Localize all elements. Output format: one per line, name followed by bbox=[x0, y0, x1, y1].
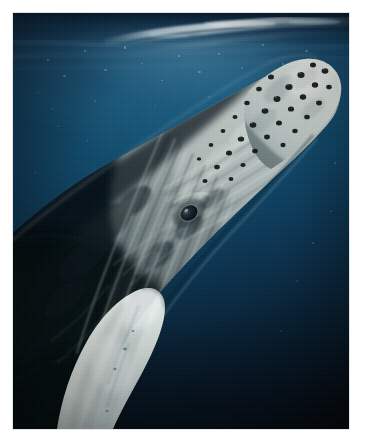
photo-mat: Underwater photograph of a humpback whal… bbox=[0, 0, 365, 441]
whale-photograph: Underwater photograph of a humpback whal… bbox=[13, 13, 349, 429]
photo-vignette bbox=[13, 13, 349, 429]
